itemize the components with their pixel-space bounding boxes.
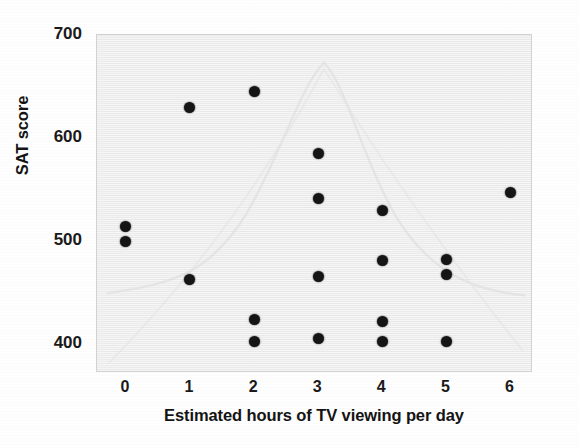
x-axis-tick-label: 2 — [238, 378, 268, 396]
data-point — [377, 205, 388, 216]
data-point — [313, 148, 324, 159]
data-point — [249, 314, 260, 325]
data-point — [441, 254, 452, 265]
x-axis-tick-label: 5 — [430, 378, 460, 396]
data-point — [313, 193, 324, 204]
y-axis-tick-label: 400 — [26, 333, 82, 353]
y-axis-tick-label: 700 — [26, 24, 82, 44]
x-axis-tick-label: 4 — [366, 378, 396, 396]
data-point — [377, 316, 388, 327]
y-axis-tick-label: 600 — [26, 127, 82, 147]
ghost-bleedthrough-curve — [97, 35, 531, 371]
data-point — [377, 255, 388, 266]
scatter-chart-figure: 400500600700 SAT score 0123456 Estimated… — [0, 0, 579, 448]
data-point — [249, 336, 260, 347]
data-point — [184, 102, 195, 113]
data-point — [184, 274, 195, 285]
panel-texture — [97, 35, 531, 371]
data-point — [313, 271, 324, 282]
x-axis-tick-label: 6 — [495, 378, 525, 396]
data-point — [313, 333, 324, 344]
data-point — [441, 336, 452, 347]
data-point — [377, 336, 388, 347]
data-point — [249, 86, 260, 97]
plot-area — [96, 34, 532, 372]
y-axis-title: SAT score — [13, 56, 32, 216]
data-point — [505, 187, 516, 198]
x-axis-tick-label: 1 — [174, 378, 204, 396]
x-axis-tick-label: 3 — [302, 378, 332, 396]
x-axis-tick-label: 0 — [110, 378, 140, 396]
data-point — [120, 236, 131, 247]
x-axis-title: Estimated hours of TV viewing per day — [96, 406, 532, 425]
y-axis-tick-label: 500 — [26, 230, 82, 250]
data-point — [120, 221, 131, 232]
data-point — [441, 269, 452, 280]
